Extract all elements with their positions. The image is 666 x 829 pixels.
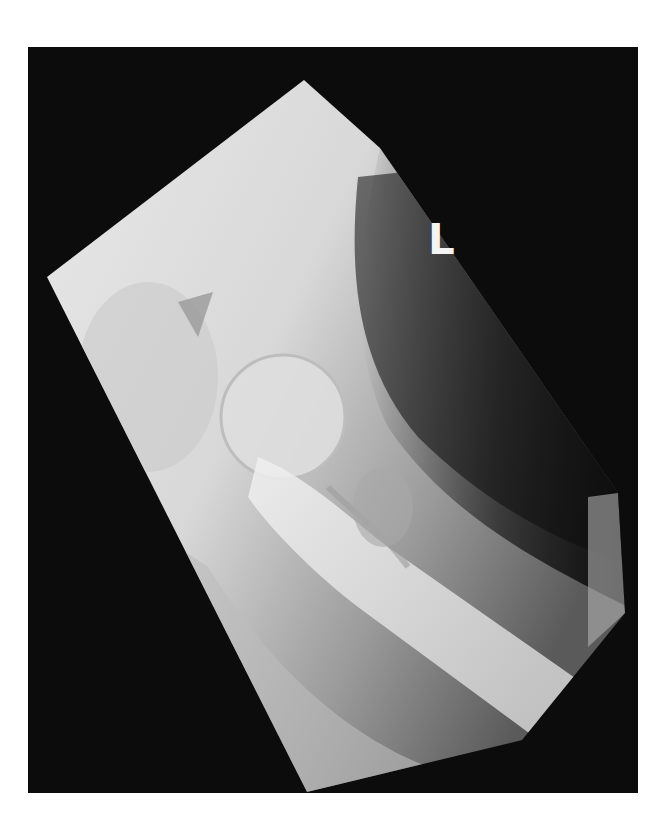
- xray-image: [28, 47, 638, 793]
- side-marker-label: L: [428, 219, 455, 261]
- xray-film: L: [28, 47, 638, 793]
